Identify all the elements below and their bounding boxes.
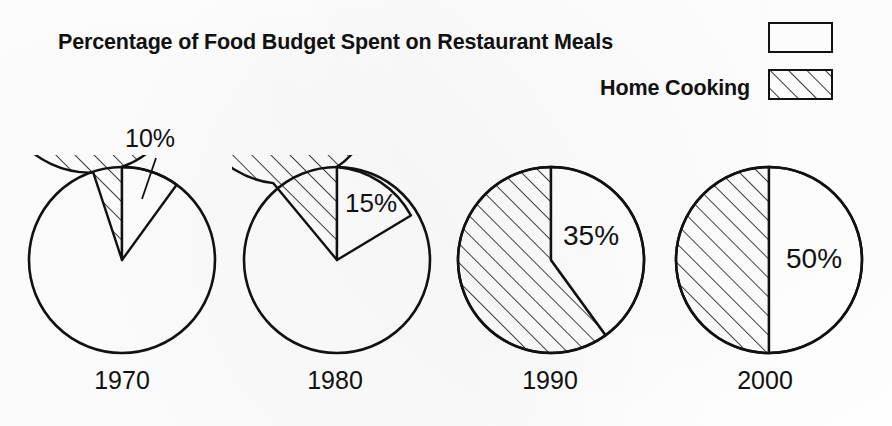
pie-slice-home-cooking: [676, 167, 769, 353]
legend-swatch-restaurant-meals: [768, 22, 833, 53]
pie-slice-restaurant-meals: [122, 167, 177, 260]
pie-chart-1970: 10%: [17, 155, 227, 370]
pie-value-label-1970: 10%: [125, 124, 175, 153]
pie-year-label-1970: 1970: [17, 366, 227, 395]
pie-year-label-1990: 1990: [445, 366, 655, 395]
pie-value-label-1980: 15%: [345, 188, 397, 219]
pie-value-label-1990: 35%: [563, 220, 619, 252]
pie-year-label-2000: 2000: [660, 366, 870, 395]
pie-chart-1980: 15%: [232, 155, 442, 370]
page-title: Percentage of Food Budget Spent on Resta…: [58, 30, 758, 55]
pie-chart-2000: 50%: [664, 155, 874, 370]
pie-chart-1990: 35%: [446, 155, 656, 370]
pie-year-label-1980: 1980: [230, 366, 440, 395]
figure-canvas: Percentage of Food Budget Spent on Resta…: [0, 0, 892, 426]
hatch-pattern-icon: [770, 71, 831, 98]
legend-swatch-home-cooking: [768, 69, 833, 100]
pie-value-label-2000: 50%: [786, 243, 842, 275]
legend-label-home-cooking: Home Cooking: [360, 76, 750, 101]
